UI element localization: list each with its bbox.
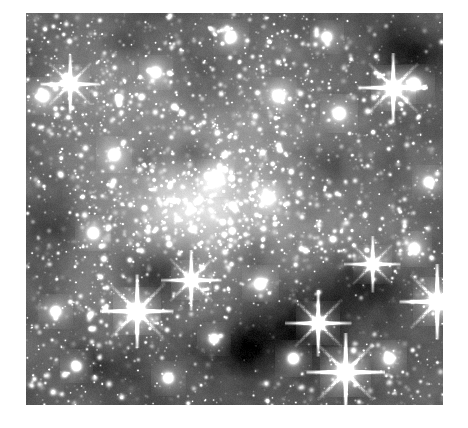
star-field-figure bbox=[26, 13, 443, 405]
screenshot-root: gray bbox=[0, 0, 468, 428]
star-field-canvas bbox=[26, 13, 443, 405]
